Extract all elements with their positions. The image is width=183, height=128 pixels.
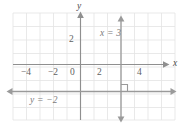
y-axis-arrowhead [77, 12, 84, 19]
right-angle-icon [121, 85, 128, 92]
y-tick-label-2: 2 [69, 35, 74, 45]
graph-canvas [0, 0, 183, 128]
x-axis-label: x [173, 59, 177, 69]
line-x-equals-3-arrowhead-top [118, 16, 125, 22]
x-tick-label-minus-4: −4 [21, 68, 31, 78]
vertical-line-equation-label: x = 3 [100, 29, 121, 39]
line-y-equals-minus-2-arrowhead-left [7, 88, 13, 95]
y-axis [77, 12, 84, 121]
coordinate-plane-figure: −4 −2 0 2 4 2 x y x = 3 y = −2 [0, 0, 183, 128]
x-tick-label-2: 2 [97, 68, 102, 78]
x-tick-label-4: 4 [137, 68, 142, 78]
x-tick-label-minus-2: −2 [48, 68, 58, 78]
y-axis-label: y [77, 2, 81, 12]
line-x-equals-3-arrowhead-bottom [118, 117, 125, 123]
horizontal-line-equation-label: y = −2 [30, 96, 58, 106]
x-tick-label-0: 0 [70, 68, 75, 78]
